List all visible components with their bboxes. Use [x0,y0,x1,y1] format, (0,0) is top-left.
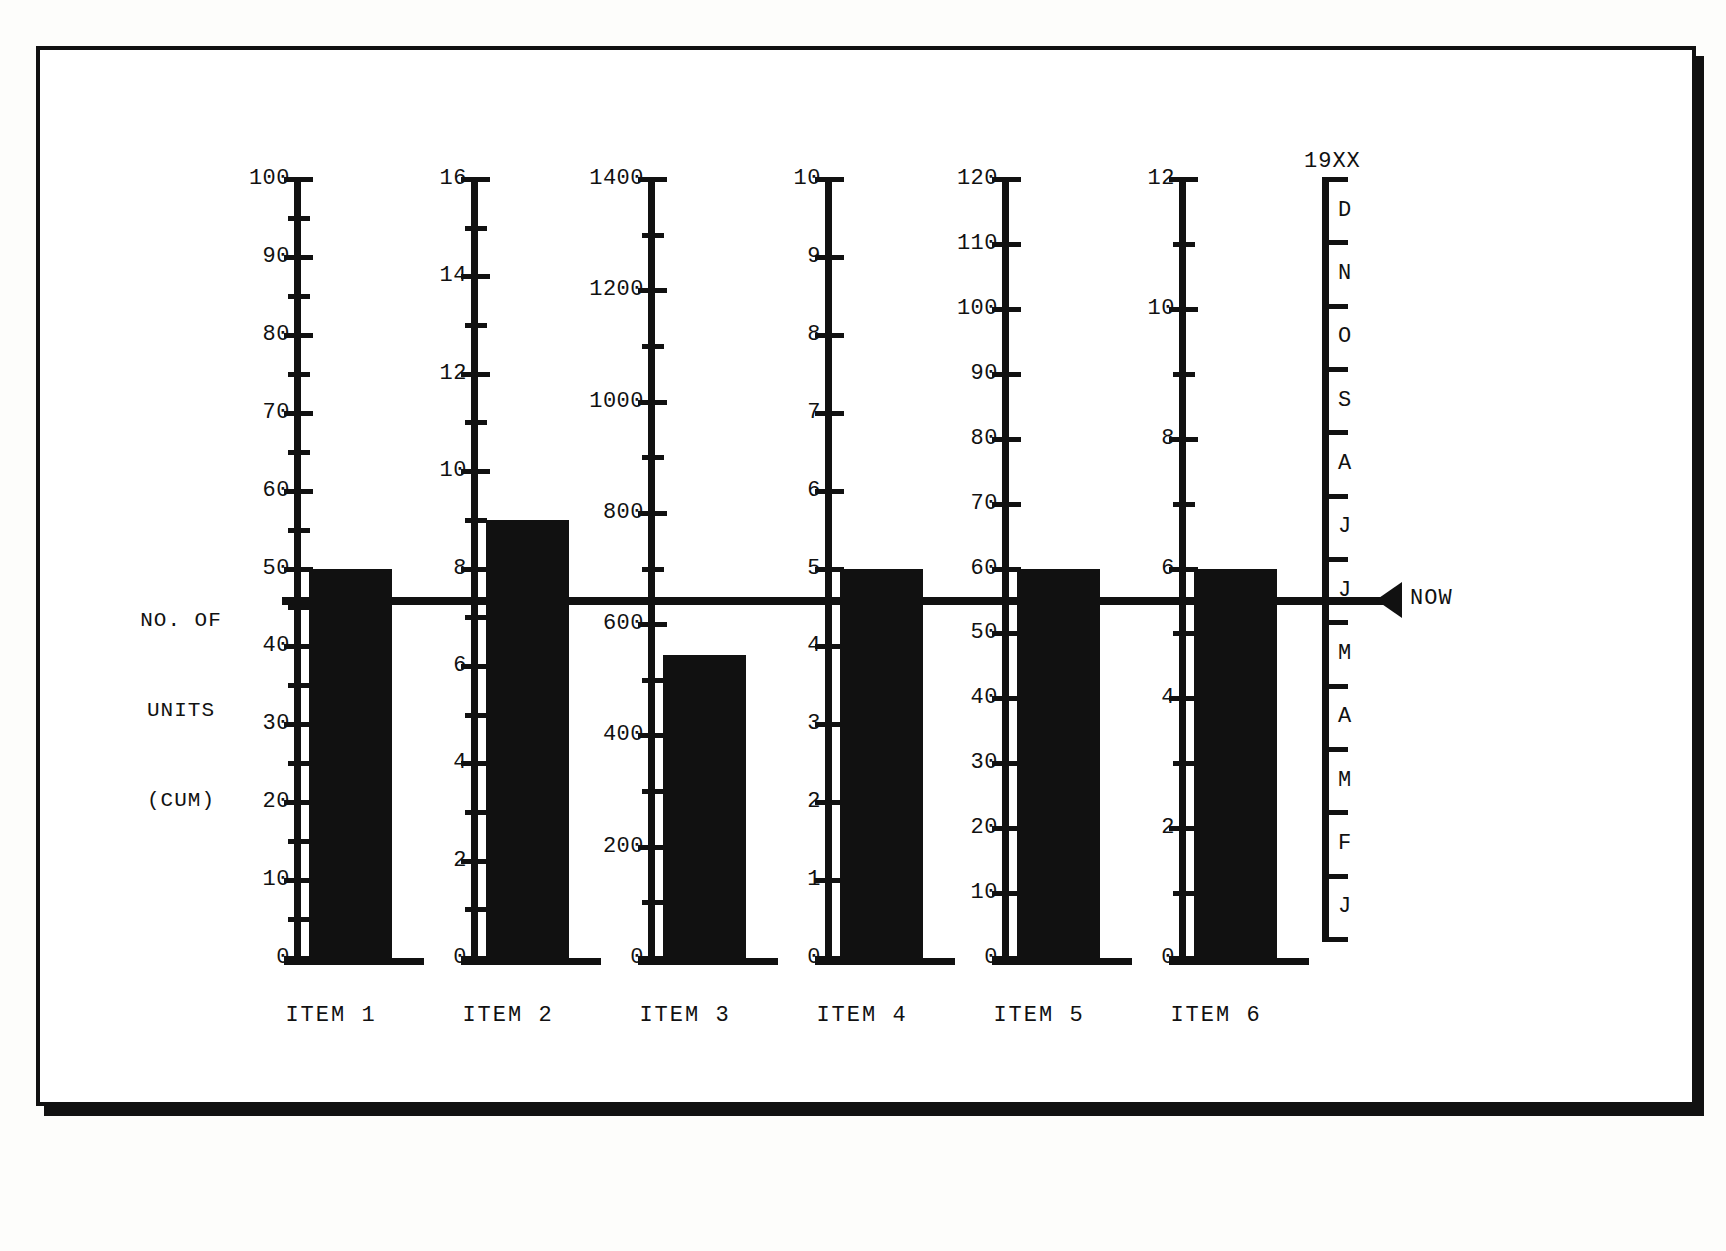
time-axis-tick [1322,874,1348,879]
axis-tick-label: 20 [263,791,290,813]
bar-2 [486,520,569,958]
axis-tick-minor [1173,372,1195,377]
axis-tick-label: 50 [971,622,998,644]
axis-tick-minor [465,420,487,425]
axis-tick-label: 2 [1161,817,1175,839]
time-axis-tick [1322,747,1348,752]
axis-tick-minor [1173,631,1195,636]
axis-tick-label: 30 [263,713,290,735]
axis-tick-label: 90 [971,363,998,385]
axis-tick-minor [642,455,664,460]
axis-tick-label: 1000 [589,391,644,413]
axis-tick-label: 4 [807,635,821,657]
axis-tick-minor [288,917,310,922]
axis-tick-label: 100 [957,298,998,320]
chart-page: NO. OF UNITS (CUM) 100908070605040302010… [0,0,1726,1251]
time-axis-tick [1322,430,1348,435]
bar-4 [840,569,923,959]
axis-tick-minor [288,839,310,844]
axis-tick-label: 800 [603,502,644,524]
axis-tick-label: 30 [971,752,998,774]
axis-tick-minor [1173,891,1195,896]
axis-tick-label: 50 [263,558,290,580]
axis-tick-label: 10 [1148,298,1175,320]
now-reference-line [282,597,1386,605]
axis-tick-minor [1173,761,1195,766]
axis-tick-label: 12 [440,363,467,385]
axis-tick-minor [642,678,664,683]
axis-tick-label: 600 [603,613,644,635]
time-axis-tick [1322,937,1348,942]
axis-tick-label: 1200 [589,279,644,301]
axis-tick-label: 9 [807,246,821,268]
axis-tick-minor [465,713,487,718]
axis-tick-label: 6 [1161,558,1175,580]
axis-tick-minor [465,518,487,523]
time-axis-tick [1322,177,1348,182]
time-axis-month-label: J [1338,896,1351,918]
time-axis-tick [1322,367,1348,372]
axis-tick-label: 120 [957,168,998,190]
axis-tick-label: 3 [807,713,821,735]
time-axis-month-label: F [1338,833,1351,855]
axis-tick-minor [642,233,664,238]
axis-tick-label: 40 [971,687,998,709]
axis-tick-label: 8 [453,558,467,580]
time-axis-month-label: J [1338,516,1351,538]
axis-tick-minor [288,372,310,377]
time-axis-tick [1322,557,1348,562]
time-axis-tick [1322,684,1348,689]
axis-tick-minor [465,323,487,328]
axis-tick-label: 60 [263,480,290,502]
axis-tick-label: 10 [794,168,821,190]
time-axis-month-label: D [1338,200,1351,222]
axis-tick-label: 400 [603,724,644,746]
axis-tick-label: 70 [263,402,290,424]
time-axis-month-label: S [1338,390,1351,412]
axis-tick-label: 1400 [589,168,644,190]
bar-1 [309,569,392,959]
time-axis-month-label: O [1338,326,1351,348]
axis-tick-label: 14 [440,265,467,287]
axis-tick-minor [465,615,487,620]
time-axis-tick [1322,620,1348,625]
time-axis-month-label: J [1338,580,1351,602]
time-axis-month-label: M [1338,643,1351,665]
axis-tick-minor [465,810,487,815]
axis-tick-minor [1173,242,1195,247]
axis-tick-label: 6 [453,655,467,677]
axis-tick-label: 7 [807,402,821,424]
axis-tick-label: 100 [249,168,290,190]
axis-tick-minor [642,900,664,905]
axis-tick-minor [288,683,310,688]
axis-tick-label: 8 [1161,428,1175,450]
axis-tick-label: 80 [263,324,290,346]
chart-plot-area: NO. OF UNITS (CUM) 100908070605040302010… [36,46,1696,1106]
year-label: 19XX [1304,149,1361,174]
axis-tick-minor [288,294,310,299]
axis-tick-minor [642,344,664,349]
axis-tick-minor [642,567,664,572]
axis-tick-minor [288,761,310,766]
axis-tick-label: 12 [1148,168,1175,190]
axis-tick-label: 10 [440,460,467,482]
axis-tick-minor [465,226,487,231]
axis-tick-label: 4 [453,752,467,774]
axis-tick-minor [288,605,310,610]
axis-tick-label: 40 [263,635,290,657]
time-axis-month-label: M [1338,770,1351,792]
axis-tick-label: 60 [971,558,998,580]
bar-5 [1017,569,1100,959]
time-axis-month-label: N [1338,263,1351,285]
axis-tick-minor [642,789,664,794]
bar-3 [663,655,746,958]
axis-tick-label: 6 [807,480,821,502]
time-axis-tick [1322,304,1348,309]
time-axis-tick [1322,810,1348,815]
axis-tick-minor [288,216,310,221]
axis-tick-label: 2 [807,791,821,813]
axis-tick-label: 5 [807,558,821,580]
axis-tick-minor [288,528,310,533]
axis-tick-label: 80 [971,428,998,450]
axis-tick-label: 10 [263,869,290,891]
